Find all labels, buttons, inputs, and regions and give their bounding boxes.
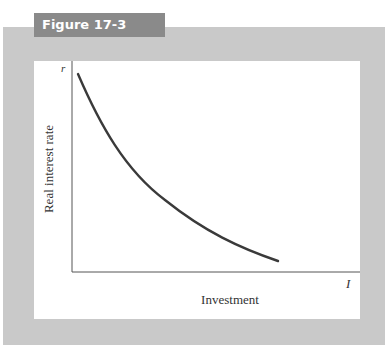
investment-curve: [78, 74, 278, 261]
y-axis-symbol: r: [61, 62, 65, 74]
x-axis-symbol: I: [346, 276, 350, 292]
x-axis-label: Investment: [180, 292, 280, 308]
y-axis-label: Real interest rate: [41, 119, 57, 219]
